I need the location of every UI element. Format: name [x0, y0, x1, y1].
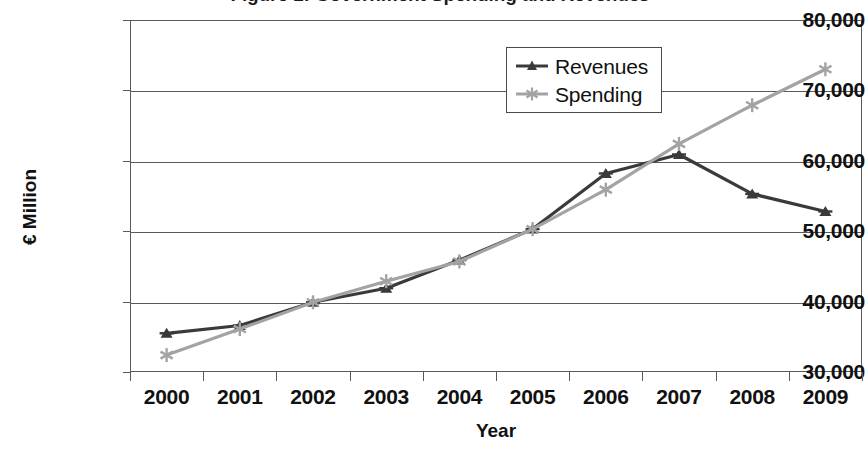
x-tick-mark	[642, 372, 643, 381]
x-tick-mark	[569, 372, 570, 381]
gridline	[131, 162, 861, 163]
legend-label-revenues: Revenues	[555, 56, 648, 77]
x-tick-label: 2005	[493, 385, 573, 409]
x-tick-mark	[130, 372, 131, 381]
y-tick-mark	[123, 90, 131, 91]
x-tick-mark	[276, 372, 277, 381]
x-tick-label: 2007	[639, 385, 719, 409]
y-tick-label: 70,000	[753, 78, 865, 102]
x-tick-label: 2009	[785, 385, 865, 409]
x-tick-mark	[862, 372, 863, 381]
plot-area	[130, 20, 862, 372]
legend-item-spending[interactable]: Spending	[515, 80, 661, 108]
x-tick-label: 2004	[419, 385, 499, 409]
x-tick-mark	[350, 372, 351, 381]
x-axis-title: Year	[130, 420, 862, 442]
x-tick-label: 2008	[712, 385, 792, 409]
y-tick-label: 60,000	[753, 149, 865, 173]
gridline	[131, 232, 861, 233]
gridline	[131, 303, 861, 304]
chart-title: Figure 1: Government Spending and Revenu…	[130, 0, 750, 6]
y-tick-label: 80,000	[753, 8, 865, 32]
y-tick-label: 40,000	[753, 290, 865, 314]
x-tick-mark	[423, 372, 424, 381]
y-tick-label: 30,000	[753, 360, 865, 384]
x-tick-label: 2006	[566, 385, 646, 409]
x-tick-label: 2000	[127, 385, 207, 409]
x-tick-mark	[496, 372, 497, 381]
y-tick-mark	[123, 231, 131, 232]
y-tick-mark	[123, 302, 131, 303]
legend-label-spending: Spending	[555, 84, 642, 105]
y-tick-mark	[123, 20, 131, 21]
x-tick-mark	[789, 372, 790, 381]
legend-swatch-revenues	[515, 57, 549, 75]
y-axis-title: € Million	[19, 137, 41, 277]
legend-item-revenues[interactable]: Revenues	[515, 52, 661, 80]
x-tick-label: 2003	[346, 385, 426, 409]
legend-swatch-spending	[515, 85, 549, 103]
x-tick-label: 2002	[273, 385, 353, 409]
x-tick-mark	[203, 372, 204, 381]
chart-container: Figure 1: Government Spending and Revenu…	[0, 0, 865, 450]
x-tick-mark	[716, 372, 717, 381]
gridline	[131, 91, 861, 92]
x-tick-label: 2001	[200, 385, 280, 409]
y-tick-label: 50,000	[753, 219, 865, 243]
y-tick-mark	[123, 161, 131, 162]
legend: Revenues Spending	[506, 47, 662, 113]
